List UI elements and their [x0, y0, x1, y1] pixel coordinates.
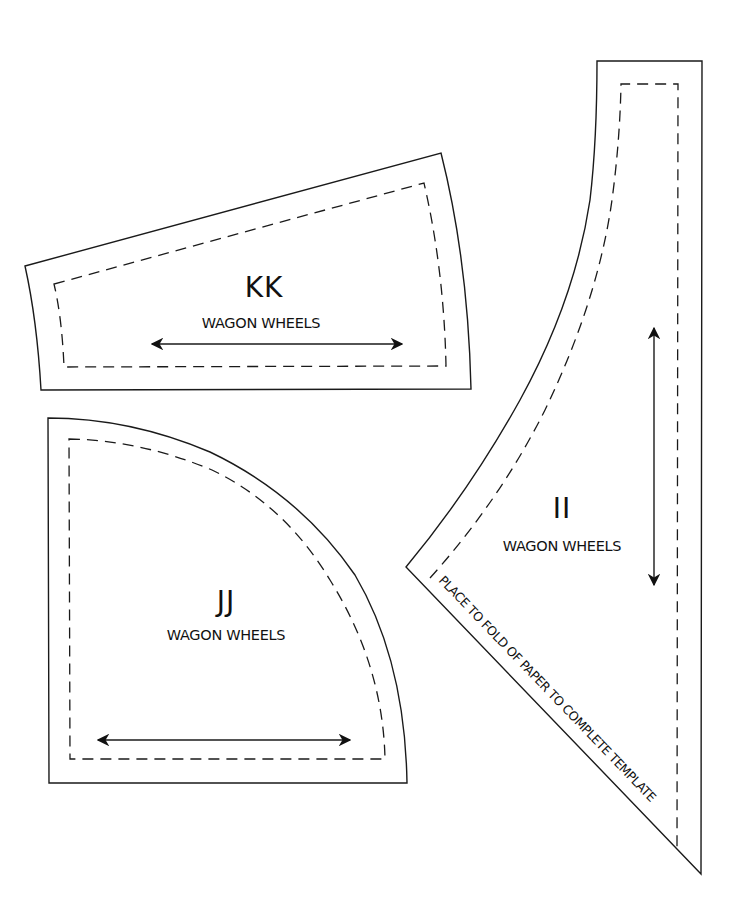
ii-piece-name: WAGON WHEELS [503, 538, 622, 554]
template-piece-ii: II WAGON WHEELS PLACE TO FOLD OF PAPER T… [406, 61, 702, 874]
jj-piece-name: WAGON WHEELS [167, 627, 286, 643]
kk-piece-label: KK [245, 271, 284, 304]
template-piece-jj: JJ WAGON WHEELS [48, 418, 407, 783]
template-piece-kk: KK WAGON WHEELS [25, 153, 471, 390]
jj-piece-label: JJ [215, 585, 236, 618]
kk-piece-name: WAGON WHEELS [202, 315, 321, 331]
ii-piece-label: II [553, 492, 572, 525]
ii-cut-line [406, 61, 702, 874]
template-sheet: KK WAGON WHEELS JJ WAGON WHEELS II WAGON… [0, 0, 743, 911]
